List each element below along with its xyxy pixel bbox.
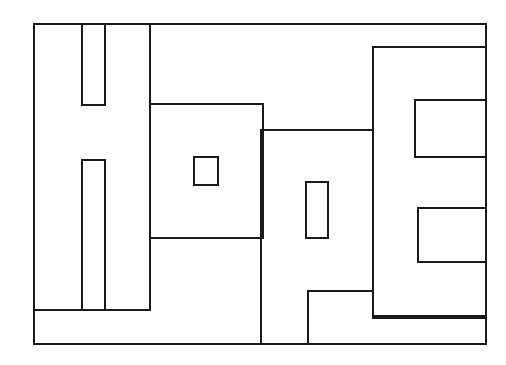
line-art-canvas: Outline line drawing of the word Hope in… <box>0 0 506 365</box>
hope-line-drawing <box>0 0 506 365</box>
